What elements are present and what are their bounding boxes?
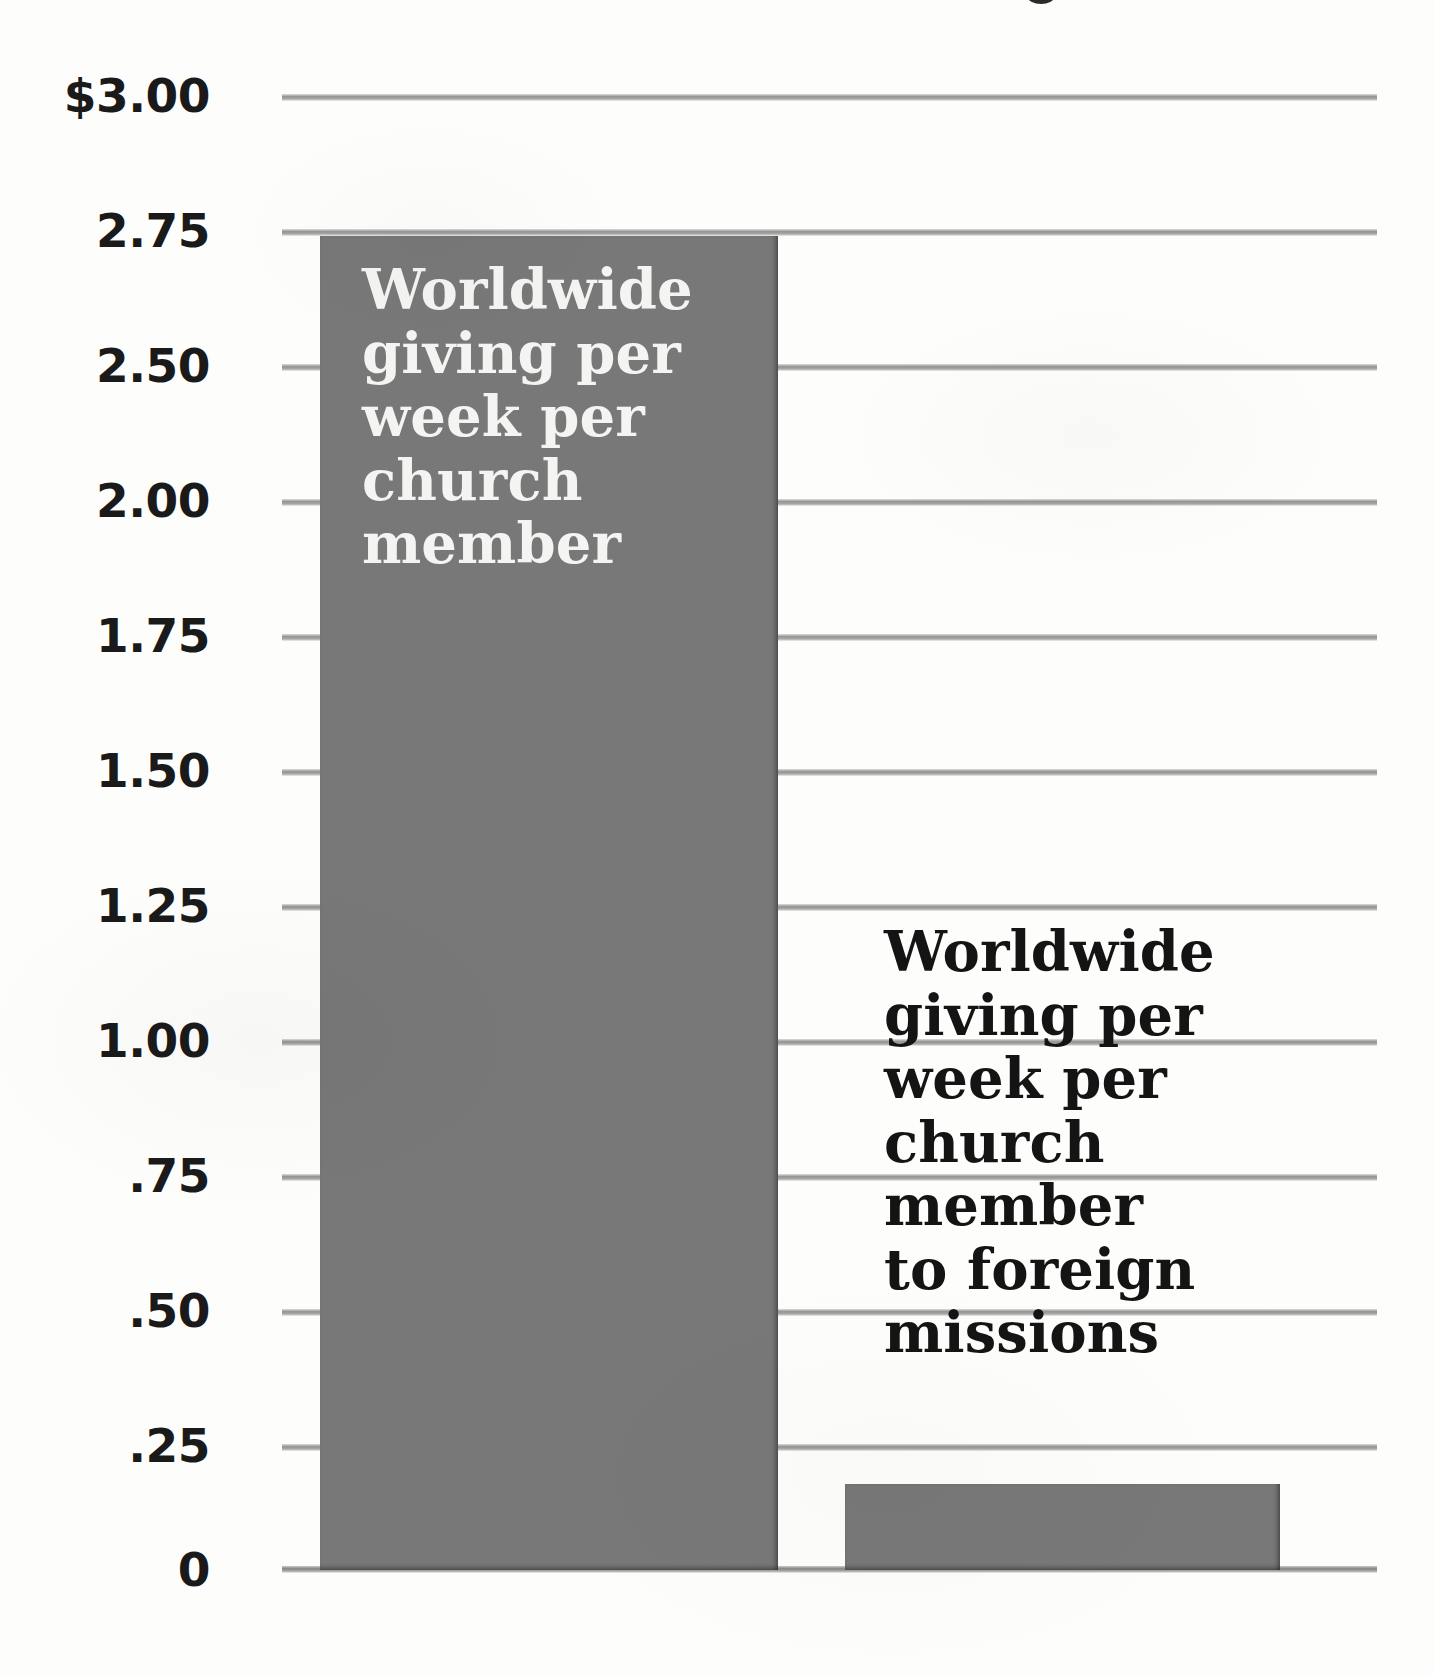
bar-label-foreign-missions: Worldwide giving per week per church mem… (884, 920, 1304, 1365)
y-axis-label-0-25: .25 (0, 1422, 210, 1469)
bar-chart-figure: $3.00 2.75 2.50 2.00 1.75 1.50 1.25 1.00… (0, 0, 1435, 1675)
bar-label-missions-line-3: week per (884, 1047, 1304, 1111)
y-axis-label-1-25: 1.25 (0, 882, 210, 929)
bar-label-missions-line-2: giving per (884, 984, 1304, 1048)
y-axis-label-3-00: $3.00 (0, 72, 210, 119)
bar-label-total-line-5: member (362, 512, 742, 576)
bar-label-total-line-1: Worldwide (362, 258, 742, 322)
y-axis-label-1-00: 1.00 (0, 1017, 210, 1064)
y-axis-label-1-50: 1.50 (0, 747, 210, 794)
gridline-2-75 (282, 229, 1377, 236)
bar-label-total-line-2: giving per (362, 322, 742, 386)
bar-label-missions-line-1: Worldwide (884, 920, 1304, 984)
bar-label-missions-line-7: missions (884, 1301, 1304, 1365)
plot-area: $3.00 2.75 2.50 2.00 1.75 1.50 1.25 1.00… (0, 0, 1435, 1675)
bar-label-missions-line-6: to foreign (884, 1238, 1304, 1302)
y-axis-label-0-75: .75 (0, 1152, 210, 1199)
bar-label-missions-line-4: church (884, 1111, 1304, 1175)
y-axis-label-2-00: 2.00 (0, 477, 210, 524)
bar-label-missions-line-5: member (884, 1174, 1304, 1238)
y-axis-label-2-75: 2.75 (0, 207, 210, 254)
bar-label-total-line-4: church (362, 449, 742, 513)
bar-label-total-giving: Worldwide giving per week per church mem… (362, 258, 742, 576)
gridline-3-00 (282, 94, 1377, 101)
y-axis-label-zero: 0 (0, 1546, 210, 1593)
bar-foreign-missions (845, 1484, 1280, 1570)
y-axis-label-2-50: 2.50 (0, 342, 210, 389)
y-axis-label-0-50: .50 (0, 1287, 210, 1334)
bar-label-total-line-3: week per (362, 385, 742, 449)
y-axis-label-1-75: 1.75 (0, 612, 210, 659)
